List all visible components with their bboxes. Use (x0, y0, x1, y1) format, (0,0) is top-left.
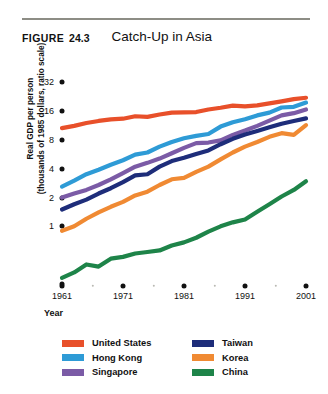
legend-label: Taiwan (222, 338, 253, 348)
legend-label: China (222, 367, 248, 377)
legend-item[interactable]: United States (62, 336, 180, 351)
series-line (62, 103, 306, 187)
series-line (62, 125, 306, 231)
legend-color-swatch (192, 340, 214, 347)
legend-label: Korea (222, 353, 248, 363)
x-axis-title: Year (44, 308, 63, 318)
x-axis-tick-dot (304, 284, 309, 289)
y-axis-tick-label: 1 (49, 221, 54, 231)
legend-item[interactable]: Hong Kong (62, 351, 180, 366)
legend-color-swatch (192, 369, 214, 376)
legend-color-swatch (62, 340, 84, 347)
y-axis-tick-label: 16 (44, 106, 54, 116)
series-lines (62, 68, 306, 284)
x-axis-tick-dot (60, 284, 65, 289)
legend-item[interactable]: Taiwan (192, 336, 310, 351)
x-axis-tick-label: 1971 (113, 291, 133, 301)
y-axis-tick-label: 4 (49, 164, 54, 174)
x-axis-tick-label: 1961 (52, 291, 72, 301)
figure-header: FIGURE 24.3 Catch-Up in Asia (22, 18, 310, 44)
x-axis-tick-dot (121, 284, 126, 289)
x-axis-minor-tick-dot (274, 285, 276, 287)
x-axis-tick-labels: 19611971198119912001 (40, 291, 328, 305)
legend-item[interactable]: China (192, 365, 310, 380)
legend-color-swatch (62, 354, 84, 361)
y-axis-tick-label: 32 (44, 77, 54, 87)
y-axis-tick-label: 8 (49, 135, 54, 145)
legend-item[interactable]: Singapore (62, 365, 180, 380)
x-axis-tick-label: 1991 (235, 291, 255, 301)
x-axis-minor-tick-dot (91, 285, 93, 287)
x-axis-tick-label: 2001 (296, 291, 316, 301)
y-axis-tick-label: 2 (49, 193, 54, 203)
x-axis-tick-dot (243, 284, 248, 289)
legend-label: Singapore (92, 367, 137, 377)
legend-label: United States (92, 338, 151, 348)
x-axis-tick-label: 1981 (174, 291, 194, 301)
chart-legend: United StatesTaiwanHong KongKoreaSingapo… (62, 336, 312, 380)
legend-color-swatch (192, 354, 214, 361)
legend-label: Hong Kong (92, 353, 142, 363)
figure-card: FIGURE 24.3 Catch-Up in Asia Real GDP pe… (0, 0, 328, 394)
y-axis-tick-labels: 32168421 (28, 68, 54, 284)
x-axis-minor-tick-dot (152, 285, 154, 287)
series-line (62, 118, 306, 209)
legend-color-swatch (62, 369, 84, 376)
x-axis-minor-tick-dot (213, 285, 215, 287)
x-axis-tick-dot (182, 284, 187, 289)
plot-area (62, 68, 306, 284)
legend-item[interactable]: Korea (192, 351, 310, 366)
figure-number: 24.3 (69, 32, 89, 44)
figure-title: Catch-Up in Asia (112, 29, 213, 44)
